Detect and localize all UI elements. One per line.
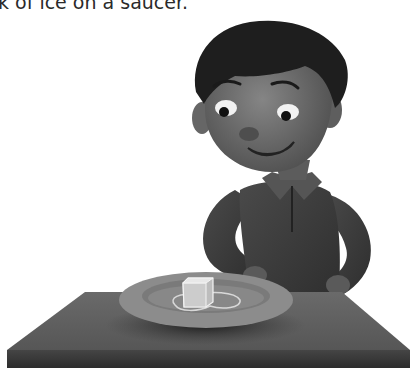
- boy: [192, 21, 371, 300]
- ice-cube: [183, 278, 213, 307]
- illustration: [0, 0, 416, 372]
